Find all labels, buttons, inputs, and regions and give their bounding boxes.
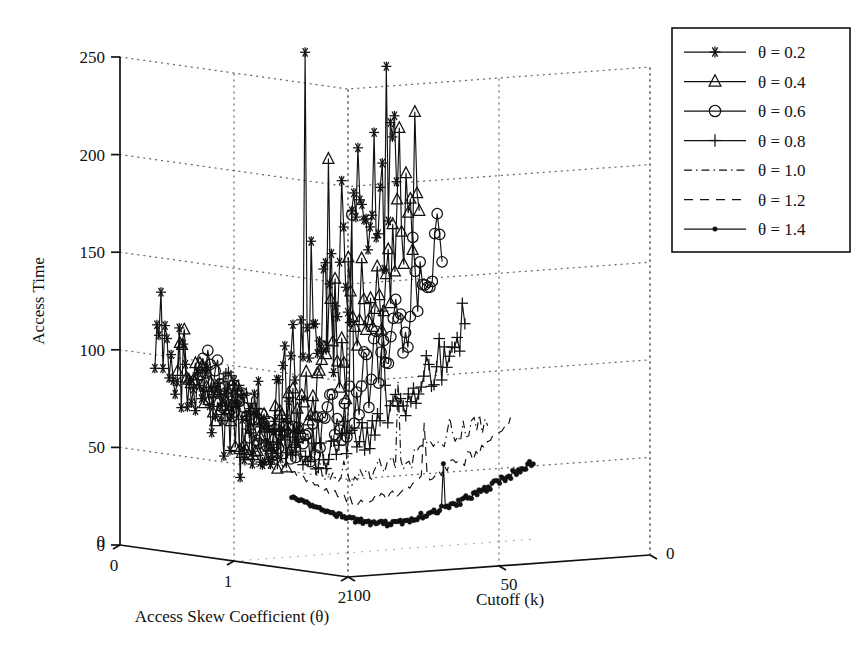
x-axis-title: Access Skew Coefficient (θ) xyxy=(135,607,329,626)
x-tick-label: 0 xyxy=(110,556,119,575)
legend-item-label: θ = 0.6 xyxy=(758,102,805,121)
legend-item-label: θ = 0.4 xyxy=(758,73,806,92)
y-tick-label: 200 xyxy=(80,146,106,165)
legend-item-label: θ = 1.0 xyxy=(758,161,805,180)
figure-3d-access-time-chart: 2502001501005000121005000 Access TimeAcc… xyxy=(0,0,866,662)
legend-item-label: θ = 0.8 xyxy=(758,132,805,151)
x-tick-label: 1 xyxy=(224,572,233,591)
z-tick-label: 0 xyxy=(666,544,675,563)
legend-box[interactable]: θ = 0.2θ = 0.4θ = 0.6θ = 0.8θ = 1.0θ = 1… xyxy=(672,28,850,252)
y-tick-label: 100 xyxy=(80,341,106,360)
svg-text:Access Time: Access Time xyxy=(29,257,48,344)
y-tick-label: 50 xyxy=(88,438,105,457)
y-tick-label: 150 xyxy=(80,243,106,262)
legend-marker-dot xyxy=(713,227,717,231)
z-axis-title: Cutoff (k) xyxy=(476,590,544,609)
y-origin-label: 0 xyxy=(97,532,106,551)
legend-item-label: θ = 1.2 xyxy=(758,191,805,210)
legend-item-label: θ = 1.4 xyxy=(758,220,806,239)
z-tick-label: 100 xyxy=(345,586,371,605)
y-axis-title: Access Time xyxy=(29,257,48,344)
legend-item-label: θ = 0.2 xyxy=(758,43,805,62)
y-tick-label: 250 xyxy=(80,48,106,67)
chart-svg: 2502001501005000121005000 Access TimeAcc… xyxy=(0,0,866,662)
